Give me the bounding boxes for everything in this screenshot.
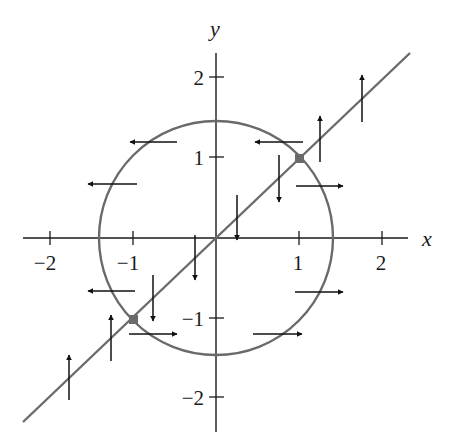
x-tick-labels: −2 −1 1 2 — [34, 251, 386, 275]
fixed-point-marker — [129, 315, 138, 324]
y-tick-label: 1 — [194, 146, 205, 170]
x-tick-label: 2 — [376, 251, 387, 275]
y-tick-label: −1 — [182, 307, 204, 331]
fixed-point-marker — [295, 154, 304, 163]
y-tick-label: 2 — [194, 66, 205, 90]
x-tick-label: −1 — [117, 251, 139, 275]
x-tick-label: −2 — [34, 251, 56, 275]
x-tick-label: 1 — [293, 251, 304, 275]
y-tick-label: −2 — [182, 386, 204, 410]
x-axis-label: x — [421, 226, 432, 251]
y-axis-label: y — [208, 16, 220, 41]
phase-plane-diagram: −2 −1 1 2 2 1 −1 −2 x y — [0, 0, 460, 448]
